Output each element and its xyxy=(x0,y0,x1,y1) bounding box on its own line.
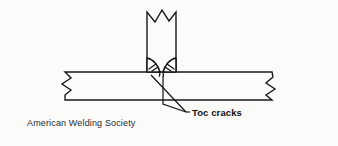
toe-cracks-callout-label: Toc cracks xyxy=(192,108,242,118)
horizontal-base-plate xyxy=(62,72,275,100)
welding-diagram-figure: Toc cracks American Welding Society xyxy=(0,0,338,146)
source-credit-label: American Welding Society xyxy=(27,119,135,128)
right-toe-crack xyxy=(163,72,164,76)
leader-line-right-crack xyxy=(163,76,186,112)
left-toe-crack xyxy=(160,72,161,76)
